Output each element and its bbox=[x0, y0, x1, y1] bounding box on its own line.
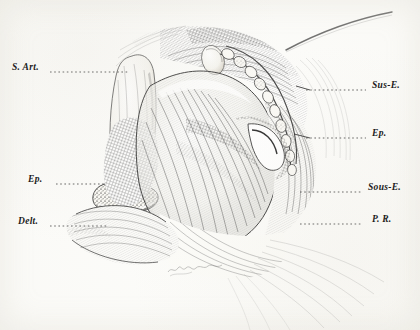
label-p-r: P. R. bbox=[372, 215, 392, 225]
label-delt: Delt. bbox=[18, 217, 38, 227]
label-sous-e: Sous-E. bbox=[368, 183, 401, 193]
label-ep-left: Ep. bbox=[28, 175, 42, 185]
anatomical-figure bbox=[0, 0, 420, 330]
label-ep-right: Ep. bbox=[372, 129, 386, 139]
label-s-art: S. Art. bbox=[12, 63, 39, 73]
label-sus-e: Sus-E. bbox=[372, 81, 400, 91]
